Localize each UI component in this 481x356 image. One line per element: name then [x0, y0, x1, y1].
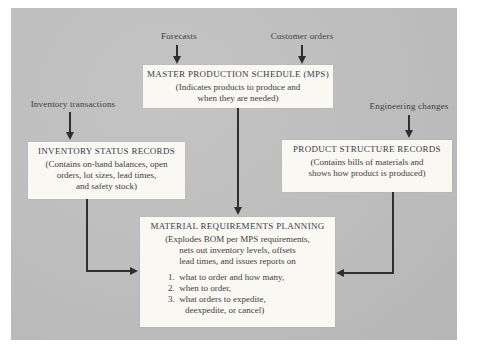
arrow-shaft — [392, 192, 394, 274]
mrp-list-item: 1. what to order and how many, — [168, 272, 335, 283]
product-desc-line: (Contains bills of materials and — [282, 157, 452, 168]
arrow-head — [405, 130, 413, 138]
arrow-head — [234, 207, 242, 215]
arrow-shaft — [344, 272, 394, 274]
mrp-desc-line: (Explodes BOM per MPS requirements, — [140, 234, 335, 245]
mps-desc-line: (Indicates products to produce and — [143, 82, 333, 93]
mrp-list-item-continuation: deexpedite, or cancel) — [168, 305, 335, 316]
inventory-desc-line: and safety stock) — [28, 181, 185, 192]
forecasts-label: Forecasts — [129, 31, 229, 41]
inventory-desc-line: (Contains on-hand balances, open — [28, 159, 185, 170]
customer-orders-label: Customer orders — [252, 31, 352, 41]
arrow-shaft — [86, 270, 130, 272]
mps-title: MASTER PRODUCTION SCHEDULE (MPS) — [143, 69, 333, 79]
mrp-title: MATERIAL REQUIREMENTS PLANNING — [140, 221, 335, 231]
mrp-desc-line: lead times, and issues reports on — [140, 256, 335, 267]
mrp-list-item: 2. when to order, — [168, 283, 335, 294]
product-title: PRODUCT STRUCTURE RECORDS — [282, 144, 452, 154]
engineering-changes-label: Engineering changes — [363, 101, 455, 111]
inventory-title: INVENTORY STATUS RECORDS — [28, 146, 185, 156]
diagram-panel: Forecasts Customer orders MASTER PRODUCT… — [11, 8, 457, 340]
inventory-transactions-label: Inventory transactions — [25, 99, 121, 109]
arrow-head — [336, 269, 344, 277]
inventory-status-records-box: INVENTORY STATUS RECORDS (Contains on-ha… — [28, 142, 185, 199]
mrp-report-list: 1. what to order and how many, 2. when t… — [168, 272, 335, 316]
arrow-shaft — [408, 115, 410, 131]
mrp-list-item: 3. what orders to expedite, — [168, 294, 335, 305]
arrow-shaft — [237, 108, 239, 208]
arrow-shaft — [86, 199, 88, 272]
mps-desc-line: when they are needed) — [143, 93, 333, 104]
arrow-head — [173, 56, 181, 64]
mps-box: MASTER PRODUCTION SCHEDULE (MPS) (Indica… — [143, 65, 333, 108]
arrow-head — [298, 56, 306, 64]
product-desc-line: shows how product is produced) — [282, 168, 452, 179]
mrp-desc-line: nets out inventory levels, offsets — [140, 245, 335, 256]
arrow-head — [130, 267, 138, 275]
mrp-flow-diagram: Forecasts Customer orders MASTER PRODUCT… — [0, 0, 481, 356]
product-structure-records-box: PRODUCT STRUCTURE RECORDS (Contains bill… — [282, 140, 452, 192]
arrow-shaft — [69, 112, 71, 133]
inventory-desc-line: orders, lot sizes, lead times, — [28, 170, 185, 181]
mrp-box: MATERIAL REQUIREMENTS PLANNING (Explodes… — [140, 217, 335, 327]
arrow-head — [66, 132, 74, 140]
